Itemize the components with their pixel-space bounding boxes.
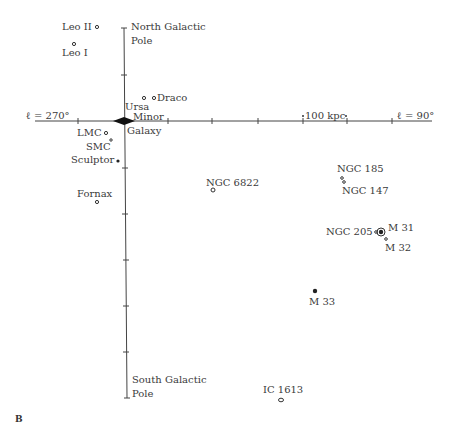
m31-core xyxy=(379,230,383,234)
ic-1613-marker xyxy=(279,398,284,402)
ngc-6822-label: NGC 6822 xyxy=(206,177,259,189)
l270-label: ℓ = 270° xyxy=(26,110,70,122)
ursa-minor-marker xyxy=(142,96,145,99)
ic-1613-label: IC 1613 xyxy=(263,384,303,396)
leo-ii-marker xyxy=(95,25,98,28)
m32-label: M 32 xyxy=(385,242,411,254)
leo-ii-label: Leo II xyxy=(62,21,92,33)
local-group-diagram xyxy=(0,0,452,427)
scale-label: 100 kpc xyxy=(305,110,345,122)
draco-label: Draco xyxy=(157,92,187,104)
ngc-205-label: NGC 205 xyxy=(326,226,373,238)
m33-marker xyxy=(313,289,317,293)
north-pole-label-1: North Galactic xyxy=(131,21,206,33)
m33-label: M 33 xyxy=(309,296,335,308)
sculptor-label: Sculptor xyxy=(71,154,114,166)
l90-label: ℓ = 90° xyxy=(397,110,434,122)
lmc-label: LMC xyxy=(77,127,102,139)
milky-way-icon xyxy=(113,117,135,125)
smc-label: SMC xyxy=(86,141,111,153)
ngc-185-marker xyxy=(341,177,344,180)
ngc-147-label: NGC 147 xyxy=(342,185,389,197)
draco-marker xyxy=(152,96,155,99)
galaxy-label: Galaxy xyxy=(127,125,161,137)
north-pole-label-2: Pole xyxy=(131,35,152,47)
south-pole-label-2: Pole xyxy=(132,388,153,400)
polar-axis xyxy=(124,28,127,398)
figure-label: B xyxy=(15,414,23,424)
minor-label: Minor xyxy=(133,111,164,123)
south-pole-label-1: South Galactic xyxy=(132,374,206,386)
m32-marker xyxy=(385,238,388,241)
ngc-185-label: NGC 185 xyxy=(337,163,384,175)
ngc-147-marker xyxy=(343,181,346,184)
m31-label: M 31 xyxy=(388,222,414,234)
fornax-marker xyxy=(95,200,98,203)
leo-i-label: Leo I xyxy=(62,47,88,59)
sculptor-marker xyxy=(116,159,119,162)
lmc-marker xyxy=(104,131,107,134)
fornax-label: Fornax xyxy=(77,188,112,200)
leo-i-marker xyxy=(72,42,75,45)
